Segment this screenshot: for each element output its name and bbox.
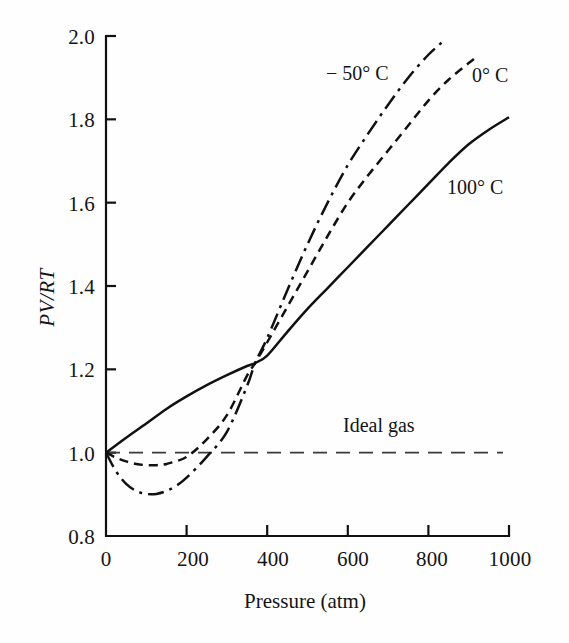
x-axis-title: Pressure (atm)	[200, 589, 410, 614]
series-label-0c: 0° C	[472, 64, 508, 87]
ytick-label-1-2: 1.2	[40, 358, 95, 383]
axis-spine	[106, 36, 509, 536]
xtick-label-0: 0	[86, 547, 126, 572]
annotation-ideal-gas: Ideal gas	[343, 414, 415, 437]
axis-ticks	[106, 36, 509, 536]
xtick-label-800: 800	[397, 547, 467, 572]
ytick-label-2-0: 2.0	[40, 25, 95, 50]
xtick-label-400: 400	[238, 547, 308, 572]
ytick-label-1-0: 1.0	[40, 442, 95, 467]
ytick-label-1-6: 1.6	[40, 192, 95, 217]
series-label-100c: 100° C	[447, 176, 503, 199]
series-curve-100-c	[106, 117, 509, 452]
xtick-label-600: 600	[318, 547, 388, 572]
xtick-label-1000: 1000	[470, 547, 550, 572]
series-label-minus50c: − 50° C	[326, 62, 389, 85]
chart-figure: 2.0 1.8 1.6 1.4 1.2 1.0 0.8 0 200 400 60…	[0, 0, 569, 643]
series-curve-0-c	[106, 57, 477, 465]
ytick-label-1-8: 1.8	[40, 108, 95, 133]
y-axis-title: PV/RT	[35, 243, 60, 353]
axes-lines	[106, 36, 509, 536]
data-series	[106, 40, 509, 494]
xtick-label-200: 200	[158, 547, 228, 572]
